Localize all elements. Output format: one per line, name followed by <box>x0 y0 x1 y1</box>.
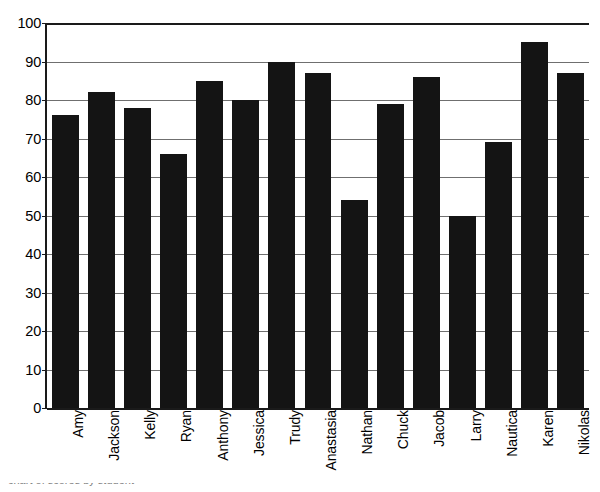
x-axis-tick-label: Trudy <box>287 410 303 482</box>
bar <box>485 142 512 408</box>
y-axis-tick-label: 30 <box>3 285 41 300</box>
y-axis-tick-label: 60 <box>3 170 41 185</box>
bar <box>377 104 404 408</box>
x-axis-tick-label: Anthony <box>215 410 231 482</box>
bar <box>341 200 368 408</box>
y-axis-tick-label: 10 <box>3 362 41 377</box>
bar <box>521 42 548 408</box>
bar <box>160 154 187 408</box>
x-axis-tick-label: Jacob <box>431 410 447 482</box>
x-axis: AmyJacksonKellyRyanAnthonyJessicaTrudyAn… <box>45 410 587 482</box>
y-axis: 0102030405060708090100 <box>0 0 41 492</box>
x-axis-tick-label: Chuck <box>395 410 411 482</box>
y-axis-tick-label: 0 <box>3 401 41 416</box>
y-axis-tick-label: 80 <box>3 93 41 108</box>
x-axis-tick-label: Karen <box>540 410 556 482</box>
x-axis-tick-label: Jackson <box>106 410 122 482</box>
x-axis-tick-label: Nautica <box>504 410 520 482</box>
x-axis-tick-label: Ryan <box>178 410 194 482</box>
y-axis-tick-label: 20 <box>3 324 41 339</box>
y-axis-tick-label: 100 <box>3 16 41 31</box>
bar <box>268 62 295 409</box>
y-axis-tick-label: 40 <box>3 247 41 262</box>
x-axis-tick-label: Nikolas <box>576 410 592 482</box>
caption-strip: chart of scores by student <box>8 483 338 492</box>
bar <box>52 115 79 408</box>
x-axis-tick-label: Amy <box>70 410 86 482</box>
bar <box>196 81 223 408</box>
bar <box>413 77 440 408</box>
bar <box>124 108 151 408</box>
x-axis-tick-label: Jessica <box>251 410 267 482</box>
bar <box>88 92 115 408</box>
y-axis-tick-label: 70 <box>3 131 41 146</box>
y-axis-tick-label: 90 <box>3 54 41 69</box>
x-axis-tick-label: Kelly <box>142 410 158 482</box>
x-axis-tick-label: Nathan <box>359 410 375 482</box>
y-axis-tick-label: 50 <box>3 208 41 223</box>
plot-area <box>45 23 589 408</box>
bar <box>449 216 476 409</box>
y-axis-tickmark <box>42 408 47 409</box>
bar <box>557 73 584 408</box>
bar <box>232 100 259 408</box>
x-axis-tick-label: Anastasia <box>323 410 339 482</box>
bar <box>305 73 332 408</box>
x-axis-tick-label: Larry <box>468 410 484 482</box>
bar-chart: 0102030405060708090100 AmyJacksonKellyRy… <box>0 0 600 492</box>
bars-layer <box>47 23 589 408</box>
caption-text: chart of scores by student <box>8 483 134 487</box>
